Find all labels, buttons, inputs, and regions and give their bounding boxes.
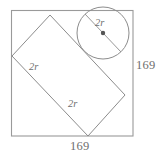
circle-diameter-label: 2r bbox=[95, 18, 104, 29]
rotated-square bbox=[12, 15, 125, 136]
rotated-square-lower-right-side-label: 2r bbox=[68, 99, 77, 110]
outer-square bbox=[12, 11, 134, 137]
outer-square-bottom-side-label: 169 bbox=[70, 140, 89, 153]
outer-square-right-side-label: 169 bbox=[136, 59, 155, 72]
rotated-square-upper-left-side-label: 2r bbox=[29, 62, 38, 73]
figure-canvas bbox=[0, 0, 165, 162]
circle-center-dot bbox=[101, 31, 105, 35]
geometry-figure: 169 169 2r 2r 2r bbox=[0, 0, 165, 162]
